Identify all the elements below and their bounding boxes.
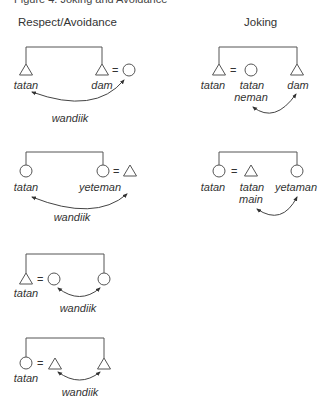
double-arrow-icon: [32, 194, 127, 209]
equals-sign: =: [230, 64, 236, 76]
label-left: tatan: [14, 181, 38, 193]
label-left: tatan: [14, 287, 38, 299]
equals-sign: =: [112, 64, 118, 76]
female-circle-icon: [48, 273, 60, 285]
male-triangle-icon: [291, 64, 304, 75]
label-left: tatan: [14, 79, 38, 91]
equals-sign: =: [231, 165, 237, 177]
diagram-avoidance-2: = tatan yeteman wandiik: [14, 152, 137, 223]
label-right: dam: [287, 79, 308, 91]
label-spouse: tatan: [240, 79, 264, 91]
label-left: tatan: [201, 181, 225, 193]
female-circle-icon: [20, 165, 32, 177]
female-circle-icon: [20, 357, 32, 369]
relation-label: wandiik: [54, 211, 91, 223]
diagram-joking-2: = tatan tatan main yetaman: [201, 152, 317, 215]
relation-label: wandiik: [62, 386, 99, 398]
equals-sign: =: [37, 357, 43, 369]
diagram-avoidance-4: = tatan wandiik: [14, 338, 111, 398]
female-circle-icon: [98, 273, 110, 285]
sibling-bracket: [26, 338, 104, 358]
female-circle-icon: [123, 64, 135, 76]
male-triangle-icon: [245, 165, 258, 176]
relation-label: wandiik: [60, 302, 97, 314]
female-circle-icon: [97, 165, 109, 177]
male-triangle-icon: [124, 165, 137, 176]
double-arrow-icon: [58, 288, 100, 297]
male-triangle-icon: [20, 64, 33, 75]
sibling-bracket: [219, 152, 297, 165]
male-triangle-icon: [213, 64, 226, 75]
female-circle-icon: [291, 165, 303, 177]
equals-sign: =: [37, 273, 43, 285]
diagram-joking-1: = tatan tatan neman dam: [201, 47, 309, 113]
sibling-bracket: [26, 254, 104, 273]
female-circle-icon: [213, 165, 225, 177]
label-right: dam: [91, 79, 112, 91]
double-arrow-icon: [58, 372, 100, 380]
equals-sign: =: [113, 165, 119, 177]
label-spouse-line2: neman: [234, 91, 268, 103]
label-spouse: tatan: [240, 181, 264, 193]
male-triangle-icon: [96, 64, 109, 75]
diagram-avoidance-3: = tatan wandiik: [14, 254, 110, 314]
diagram-avoidance-1: = tatan dam wandiik: [14, 47, 135, 124]
kinship-diagrams: = tatan dam wandiik = tatan yeteman wand…: [0, 0, 329, 403]
relation-label: wandiik: [52, 112, 89, 124]
sibling-bracket: [26, 152, 103, 165]
label-left: tatan: [201, 79, 225, 91]
sibling-bracket: [219, 47, 297, 64]
label-spouse-line2: main: [239, 193, 263, 205]
label-right: yeteman: [78, 181, 121, 193]
male-triangle-icon: [98, 358, 111, 369]
sibling-bracket: [26, 47, 102, 64]
female-circle-icon: [245, 64, 257, 76]
label-left: tatan: [14, 372, 38, 384]
male-triangle-icon: [49, 358, 62, 369]
double-arrow-icon: [257, 197, 297, 215]
male-triangle-icon: [20, 273, 33, 284]
label-right: yetaman: [274, 181, 317, 193]
